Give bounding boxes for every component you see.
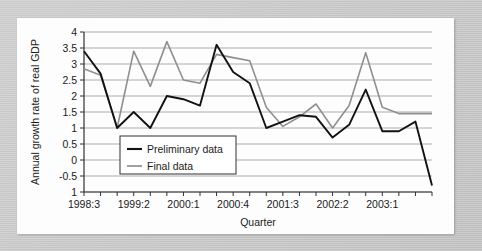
x-tick-label: 2000:1 [167,198,199,210]
chart-figure-panel: 43.532.521.510.50-0.51 1998:31999:22000:… [17,18,454,234]
y-tick-label: 4 [71,26,77,38]
x-tick-label: 1998:3 [68,198,100,210]
line-chart: 43.532.521.510.50-0.51 1998:31999:22000:… [17,18,454,234]
y-tick-labels-group: 43.532.521.510.50-0.51 [59,26,77,198]
y-tick-label: 2 [71,90,77,102]
x-axis-title: Quarter [240,216,276,228]
x-tick-label: 2003:1 [366,198,398,210]
plot-area-wrapper: 43.532.521.510.50-0.51 1998:31999:22000:… [17,18,454,234]
x-tick-label: 2000:4 [217,198,249,210]
y-tick-label: 2.5 [62,74,77,86]
y-tick-label: 1.5 [62,106,77,118]
x-tick-labels-group: 1998:31999:22000:12000:42001:32002:22003… [68,198,399,210]
figure-screenshot: 43.532.521.510.50-0.51 1998:31999:22000:… [0,0,482,251]
y-tick-label: 1 [71,122,77,134]
legend-label: Preliminary data [147,143,223,155]
y-tick-label: 0.5 [62,138,77,150]
y-tick-label: 3 [71,58,77,70]
y-tick-label: -0.5 [59,170,77,182]
legend-label: Final data [147,160,193,172]
y-axis-title: Annual growth rate of real GDP [29,39,41,185]
chart-legend[interactable]: Preliminary dataFinal data [120,136,236,174]
y-tick-label: 3.5 [62,42,77,54]
x-tick-label: 1999:2 [118,198,150,210]
x-tick-label: 2001:3 [267,198,299,210]
y-tick-label: 1 [71,186,77,198]
y-tick-label: 0 [71,154,77,166]
x-tick-label: 2002:2 [317,198,349,210]
